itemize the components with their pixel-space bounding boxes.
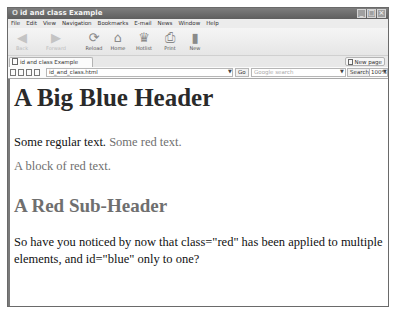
hotlist-button[interactable]: ♛ Hotlist [132,30,156,54]
tab-id-and-class-example[interactable]: id and class Example [9,57,93,67]
tab-bar: id and class Example New page [8,56,388,67]
print-icon: ⎙ [158,30,182,45]
red-sub-header: A Red Sub-Header [14,194,167,218]
hotlist-label: Hotlist [132,45,156,52]
close-button[interactable]: × [377,9,386,18]
regular-text: Some regular text. [14,135,109,149]
windows-icon[interactable] [10,69,16,76]
back-button[interactable]: ◀ Back [10,30,34,54]
explanation-paragraph: So have you noticed by now that class="r… [14,234,384,267]
address-bar: id_and_class.html ▼ Go Google search ▼ S… [8,67,388,79]
go-button[interactable]: Go [235,68,249,77]
regular-paragraph: Some regular text. Some red text. [14,134,182,150]
forward-label: Forward [44,45,68,52]
back-label: Back [10,45,34,52]
reload-button[interactable]: ⟳ Reload [82,30,106,54]
search-engine-dropdown-icon[interactable]: ▼ [340,67,344,76]
menu-bookmarks[interactable]: Bookmarks [98,19,129,28]
menu-bar: File Edit View Navigation Bookmarks E-ma… [8,19,388,28]
menu-window[interactable]: Window [178,19,200,28]
new-page-button[interactable]: New page [345,57,385,66]
back-arrow-icon: ◀ [10,30,34,45]
home-icon: ⌂ [106,30,130,45]
menu-news[interactable]: News [158,19,173,28]
zoom-dropdown-icon[interactable]: ▼ [383,67,387,76]
reload-icon: ⟳ [82,30,106,45]
menu-file[interactable]: File [11,19,20,28]
hotlist-icon: ♛ [132,30,156,45]
tab-label: id and class Example [20,59,78,65]
new-page-label: New page [355,59,382,65]
home-label: Home [106,45,130,52]
address-icons [10,69,40,76]
opera-logo-icon: O [12,9,18,17]
print-preview-icon[interactable] [34,69,40,76]
page-content: A Big Blue Header Some regular text. Som… [8,79,388,307]
menu-help[interactable]: Help [206,19,219,28]
url-input[interactable]: id_and_class.html [46,68,233,77]
new-page-icon: ▮ [183,30,207,45]
big-blue-header: A Big Blue Header [14,83,213,113]
forward-button[interactable]: ▶ Forward [44,30,68,54]
forward-arrow-icon: ▶ [44,30,68,45]
home-button[interactable]: ⌂ Home [106,30,130,54]
menu-email[interactable]: E-mail [134,19,151,28]
new-button[interactable]: ▮ New [183,30,207,54]
menu-view[interactable]: View [43,19,56,28]
url-dropdown-icon[interactable]: ▼ [228,67,232,76]
red-block-paragraph: A block of red text. [14,158,111,174]
menu-navigation[interactable]: Navigation [62,19,92,28]
minimize-button[interactable]: _ [357,9,366,18]
navigation-toolbar: ◀ Back ▶ Forward ⟳ Reload ⌂ Home ♛ Hotli… [8,28,388,56]
window-title-text: id and class Example [20,9,103,17]
reload-label: Reload [82,45,106,52]
browser-window: Oid and class Example _ □ × File Edit Vi… [7,7,389,307]
menu-edit[interactable]: Edit [26,19,37,28]
print-button[interactable]: ⎙ Print [158,30,182,54]
security-icon[interactable] [18,69,24,76]
page-icon [348,59,353,65]
title-bar[interactable]: Oid and class Example _ □ × [8,8,388,19]
page-info-icon[interactable] [26,69,32,76]
new-label: New [183,45,207,52]
maximize-button[interactable]: □ [367,9,376,18]
print-label: Print [158,45,182,52]
search-input[interactable]: Google search [251,68,346,77]
page-icon [12,58,18,65]
window-controls: _ □ × [357,9,386,18]
window-title: Oid and class Example [12,8,102,19]
red-span-text: Some red text. [109,135,182,149]
